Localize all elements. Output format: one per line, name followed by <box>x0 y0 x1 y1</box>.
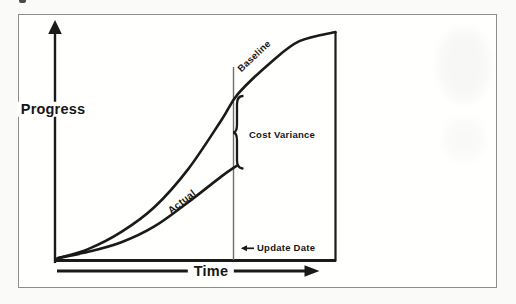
x-axis-label: Time <box>188 263 234 278</box>
update-date-label: Update Date <box>257 244 315 254</box>
y-axis-arrowhead-icon <box>48 20 62 34</box>
cost-variance-brace-icon <box>233 96 243 169</box>
baseline-curve <box>58 32 336 258</box>
update-date-arrowhead <box>241 245 247 251</box>
cost-variance-label: Cost Variance <box>249 130 315 140</box>
update-date-arrow-icon <box>241 245 254 251</box>
y-axis-label: Progress <box>17 102 89 117</box>
time-arrowhead-icon <box>305 265 320 276</box>
y-axis-arrow <box>48 20 62 263</box>
